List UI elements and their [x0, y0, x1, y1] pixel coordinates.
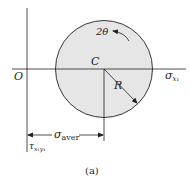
mohr-circle-diagram: O C R 2θ σx₁ τx₁y₁ σaver (a) — [0, 0, 190, 183]
sigma-x1-label: σx₁ — [165, 69, 179, 83]
tau-x1y1-label: τx₁y₁ — [29, 141, 46, 153]
radius-label: R — [113, 79, 122, 92]
origin-label: O — [14, 70, 23, 83]
figure-caption: (a) — [85, 165, 99, 176]
center-label: C — [91, 55, 100, 68]
sigma-aver-label: σaver — [54, 128, 80, 142]
angle-label: 2θ — [95, 26, 108, 37]
